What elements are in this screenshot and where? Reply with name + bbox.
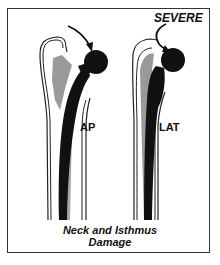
caption-line-2: Damage	[30, 236, 190, 248]
lat-view-label: LAT	[159, 121, 180, 133]
ap-femur-diagram	[40, 26, 108, 220]
ap-view-label: AP	[80, 121, 95, 133]
figure-caption: Neck and Isthmus Damage	[30, 224, 190, 248]
caption-line-1: Neck and Isthmus	[30, 224, 190, 236]
severity-label: SEVERE	[154, 11, 203, 25]
